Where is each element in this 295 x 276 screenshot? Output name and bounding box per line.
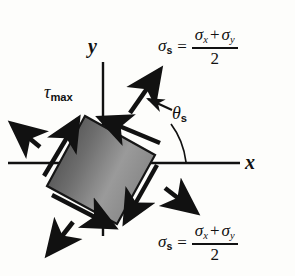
sigma-lower-right-arrow [165,188,196,212]
sigma-s-top-equation: σs = σx+σy 2 [158,26,238,67]
tau-max-label: τmax [44,83,73,103]
sigma-s-top-fraction: σx+σy 2 [192,26,238,67]
figure-canvas [0,0,295,276]
theta-symbol: θ [172,103,181,123]
sigma-s-bottom-equation: σs = σx+σy 2 [158,222,238,263]
sigma-upper-right-arrow [130,70,160,113]
stress-element-figure: y x τmax θs σs = σx+σy 2 σs = σx+σy 2 [0,0,295,276]
sigma-upper-left-arrow [12,124,40,147]
sigma-x-symbol-top: σ [195,25,203,44]
theta-s-label: θs [172,104,187,124]
theta-s-leader-arrow [148,99,172,110]
sigma-s-bottom-fraction: σx+σy 2 [192,222,238,263]
sigma-s-bottom-equals: = [176,234,188,251]
sigma-lower-left-arrow [48,222,73,254]
y-axis-label: y [88,36,97,56]
sigma-s-top-numerator: σx+σy [192,26,238,47]
x-axis-label: x [245,152,255,172]
sigma-s-bottom-subscript: s [166,240,172,252]
sigma-s-bottom-numerator: σx+σy [192,222,238,243]
sigma-s-top-equals: = [176,38,188,55]
sigma-s-bottom-denominator: 2 [207,245,222,264]
theta-s-angle-arc [171,124,186,162]
sigma-s-top-lhs: σs [158,37,172,55]
sigma-y-subscript-bottom: y [230,230,235,241]
tau-subscript: max [50,91,72,103]
sigma-s-top-subscript: s [166,44,172,56]
sigma-y-subscript-top: y [230,34,235,45]
sigma-x-symbol-bottom: σ [195,221,203,240]
theta-subscript: s [181,112,187,124]
sigma-top-plus: + [208,25,222,44]
sigma-s-top-denominator: 2 [207,49,222,68]
sigma-s-bottom-lhs: σs [158,233,172,251]
sigma-y-symbol-bottom: σ [222,221,230,240]
sigma-y-symbol-top: σ [222,25,230,44]
sigma-bottom-plus: + [208,221,222,240]
